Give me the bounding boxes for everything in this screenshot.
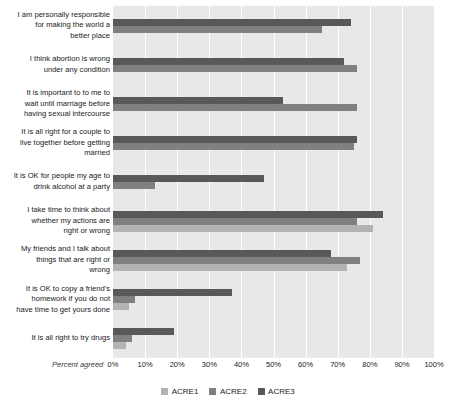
bar-acre2 [113,335,132,342]
bar-acre2 [113,218,357,225]
bar-group [113,45,434,84]
x-axis-tick: 40% [234,360,249,369]
category-label: It is all right for a couple tolive toge… [2,123,110,162]
bar-acre2 [113,143,354,150]
legend-item-acre1[interactable]: ACRE1 [161,387,198,396]
bar-acre1 [113,225,373,232]
bar-acre2 [113,104,357,111]
category-label: It is OK for people my age todrink alcoh… [2,162,110,201]
category-label: I take time to think aboutwhether my act… [2,202,110,241]
category-label-line: It is important to to me to [2,88,110,99]
bar-acre1 [113,342,126,349]
bar-acre3 [113,328,174,335]
x-axis-tick: 90% [394,360,409,369]
legend-item-acre2[interactable]: ACRE2 [209,387,246,396]
bar-acre3 [113,289,232,296]
bar-acre2 [113,65,357,72]
x-axis-tick: 30% [202,360,217,369]
bar-group [113,6,434,45]
bar-acre2 [113,26,322,33]
category-label: It is important to to me towait until ma… [2,84,110,123]
category-label: It is OK to copy a friend'shomework if y… [2,280,110,319]
bar-acre3 [113,211,383,218]
category-label-line: I think abortion is wrong [2,54,110,65]
category-label-line: drink alcohol at a party [2,182,110,193]
bar-acre3 [113,250,331,257]
x-axis-tick: 0% [108,360,119,369]
category-label-line: whether my actions are [2,216,110,227]
legend-label: ACRE3 [268,387,295,396]
bars-layer [113,6,434,358]
legend-label: ACRE1 [172,387,199,396]
category-label-line: live together before getting [2,138,110,149]
bar-group [113,202,434,241]
grouped-bar-chart: I am personally responsiblefor making th… [0,0,456,405]
category-label-line: I take time to think about [2,205,110,216]
bar-acre3 [113,97,283,104]
category-label-line: My friends and I talk about [2,244,110,255]
bar-acre3 [113,19,351,26]
category-label-line: It is OK to copy a friend's [2,284,110,295]
bar-group [113,162,434,201]
legend-swatch-icon [209,388,216,395]
legend-swatch-icon [161,388,168,395]
category-label-line: for making the world a [2,20,110,31]
bar-acre1 [113,264,347,271]
bar-group [113,123,434,162]
category-label-line: homework if you do not [2,294,110,305]
bar-acre3 [113,136,357,143]
category-label-line: have time to get yours done [2,305,110,316]
x-axis-tick: 70% [330,360,345,369]
bar-group [113,241,434,280]
category-label: My friends and I talk aboutthings that a… [2,241,110,280]
category-label: I am personally responsiblefor making th… [2,6,110,45]
category-label-line: having sexual intercourse [2,109,110,120]
category-label-line: things that are right or [2,255,110,266]
category-label-line: It is all right for a couple to [2,127,110,138]
bar-acre2 [113,296,135,303]
bar-acre3 [113,58,344,65]
bar-group [113,84,434,123]
bar-acre2 [113,182,155,189]
bar-group [113,319,434,358]
category-label-line: It is OK for people my age to [2,171,110,182]
x-axis-tick: 50% [266,360,281,369]
category-label-line: right or wrong [2,226,110,237]
legend-item-acre3[interactable]: ACRE3 [258,387,295,396]
category-label-line: under any condition [2,65,110,76]
category-label-line: better place [2,31,110,42]
category-label-line: I am personally responsible [2,10,110,21]
category-label: I think abortion is wrongunder any condi… [2,45,110,84]
legend-swatch-icon [258,388,265,395]
bar-acre3 [113,175,264,182]
category-label-line: It is all right to try drugs [2,333,110,344]
x-axis-tick: 10% [138,360,153,369]
bar-acre1 [113,303,129,310]
bar-acre2 [113,257,360,264]
x-axis: 0%10%20%30%40%50%60%70%80%90%100% [113,360,434,374]
x-axis-tick: 20% [170,360,185,369]
category-label-line: wait until marriage before [2,99,110,110]
legend: ACRE1ACRE2ACRE3 [0,387,456,396]
gridline [434,6,435,358]
category-label-line: married [2,148,110,159]
category-labels: I am personally responsiblefor making th… [0,6,110,358]
bar-group [113,280,434,319]
x-axis-title: Percent agreed [52,360,103,369]
x-axis-tick: 100% [424,360,443,369]
category-label: It is all right to try drugs [2,319,110,358]
legend-label: ACRE2 [220,387,247,396]
x-axis-tick: 80% [362,360,377,369]
x-axis-tick: 60% [298,360,313,369]
category-label-line: wrong [2,265,110,276]
